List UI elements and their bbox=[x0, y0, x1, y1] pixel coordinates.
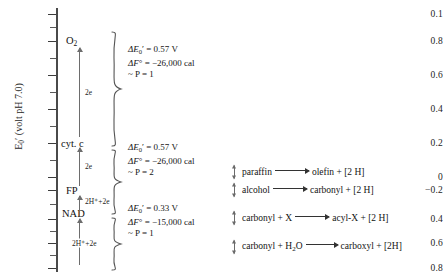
axis-tick-label: 0.4 bbox=[399, 104, 443, 114]
thermo-delta-f-row: ΔF° = −15,000 cal bbox=[128, 217, 195, 229]
y-axis-title-prime: ′ bbox=[13, 138, 24, 140]
species-label-o2: O2 bbox=[66, 35, 77, 48]
axis-tick bbox=[48, 177, 56, 178]
species-label-fp: FP bbox=[66, 185, 78, 196]
thermo-p-row: ~ P = 1 bbox=[128, 228, 195, 240]
thermo-delta-e-row: ΔE0′ = 0.57 V bbox=[128, 142, 195, 156]
y-axis-title-subscript: 0 bbox=[17, 140, 26, 144]
thermo-delta-e-prime: ′ bbox=[142, 44, 144, 54]
thermo-delta-f-row: ΔF° = −26,000 cal bbox=[128, 58, 195, 70]
y-axis-line bbox=[56, 8, 58, 272]
reaction-paraffin-olefin: paraffinolefin + [2 H] bbox=[242, 167, 365, 177]
reaction-alcohol-carbonyl: alcoholcarbonyl + [2 H] bbox=[242, 185, 374, 195]
reaction-products: acyl-X + [2 H] bbox=[332, 213, 388, 223]
thermo-delta-f-degree: ° bbox=[139, 156, 143, 166]
axis-tick bbox=[48, 268, 56, 269]
axis-tick-label: 0.8 bbox=[399, 36, 443, 46]
electron-arrow-label-fp-to-cytc: 2e bbox=[84, 162, 93, 171]
thermo-block-site-2: ΔE0′ = 0.57 V ΔF° = −26,000 cal ~ P = 2 bbox=[128, 142, 195, 179]
thermo-delta-f-symbol: ΔF bbox=[128, 156, 139, 166]
reaction-products: carbonyl + [2 H] bbox=[310, 185, 374, 195]
brace-site-1 bbox=[110, 216, 124, 272]
thermo-p-row: ~ P = 2 bbox=[128, 167, 195, 179]
axis-minor-tick bbox=[50, 255, 56, 256]
thermo-delta-e-symbol: ΔE bbox=[128, 44, 139, 54]
reaction-reactant-tail: O bbox=[296, 241, 303, 251]
y-axis-title: E0′ (volt pH 7.0) bbox=[13, 42, 26, 192]
thermo-delta-f-degree: ° bbox=[139, 217, 143, 227]
axis-tick bbox=[48, 219, 56, 220]
axis-tick bbox=[48, 41, 56, 42]
thermo-delta-f-value: = −15,000 cal bbox=[145, 217, 195, 227]
axis-tick-label: 0.6 bbox=[399, 70, 443, 80]
y-axis-title-symbol: E bbox=[13, 144, 24, 150]
thermo-delta-e-symbol: ΔE bbox=[128, 142, 139, 152]
axis-tick bbox=[48, 109, 56, 110]
thermo-delta-e-value: = 0.33 V bbox=[146, 203, 178, 213]
axis-minor-tick bbox=[50, 126, 56, 127]
axis-tick-label: 0.2 bbox=[399, 138, 443, 148]
axis-minor-tick bbox=[50, 27, 56, 28]
reaction-reactants: carbonyl + X bbox=[242, 213, 292, 223]
axis-tick bbox=[48, 75, 56, 76]
axis-tick-label: 0.4 bbox=[399, 214, 443, 224]
thermo-delta-f-symbol: ΔF bbox=[128, 217, 139, 227]
electron-arrow-cytc-to-o2 bbox=[79, 48, 80, 137]
axis-minor-tick bbox=[50, 92, 56, 93]
electron-arrow-label-nad-to-fp: 2H⁺+2e bbox=[84, 197, 110, 206]
reaction-reactants: alcohol bbox=[242, 185, 270, 195]
reaction-reactants: paraffin bbox=[242, 167, 272, 177]
reaction-reactants: carbonyl + H bbox=[242, 241, 292, 251]
axis-tick bbox=[48, 243, 56, 244]
axis-tick bbox=[48, 190, 56, 191]
species-name: O bbox=[66, 35, 74, 46]
brace-site-3 bbox=[110, 30, 124, 148]
reaction-arrow-icon bbox=[273, 185, 307, 192]
thermo-delta-e-value: = 0.57 V bbox=[146, 44, 178, 54]
axis-tick bbox=[48, 14, 56, 15]
reaction-products: carboxyl + [2H] bbox=[341, 241, 402, 251]
thermo-block-site-3: ΔE0′ = 0.57 V ΔF° = −26,000 cal ~ P = 1 bbox=[128, 44, 195, 81]
reaction-arrow-icon bbox=[306, 241, 338, 248]
electron-label-text: 2H⁺+2e bbox=[85, 197, 109, 206]
axis-minor-tick bbox=[50, 160, 56, 161]
reaction-arrow-icon bbox=[275, 167, 309, 174]
thermo-delta-e-row: ΔE0′ = 0.33 V bbox=[128, 203, 195, 217]
thermo-delta-f-row: ΔF° = −26,000 cal bbox=[128, 156, 195, 168]
electron-arrow-label-substrate-to-nad: 2H⁺+2e bbox=[71, 239, 97, 248]
reaction-updown-arrow-icon bbox=[234, 184, 235, 197]
thermo-delta-e-value: = 0.57 V bbox=[146, 142, 178, 152]
axis-tick-label: 0.1 bbox=[399, 9, 443, 19]
thermo-delta-e-prime: ′ bbox=[142, 142, 144, 152]
axis-tick bbox=[48, 143, 56, 144]
thermo-delta-e-symbol: ΔE bbox=[128, 203, 139, 213]
thermo-delta-e-prime: ′ bbox=[142, 203, 144, 213]
reaction-products: olefin + [2 H] bbox=[312, 167, 365, 177]
thermo-delta-e-row: ΔE0′ = 0.57 V bbox=[128, 44, 195, 58]
species-label-nad: NAD bbox=[62, 208, 85, 219]
axis-tick-label: 0.6 bbox=[399, 238, 443, 248]
axis-tick-label: 0 bbox=[399, 172, 443, 182]
reaction-carbonyl-acylx: carbonyl + Xacyl-X + [2 H] bbox=[242, 213, 389, 223]
axis-minor-tick bbox=[50, 231, 56, 232]
reaction-updown-arrow-icon bbox=[234, 166, 235, 179]
thermo-p-row: ~ P = 1 bbox=[128, 69, 195, 81]
axis-minor-tick bbox=[50, 204, 56, 205]
thermo-delta-f-degree: ° bbox=[139, 58, 143, 68]
axis-minor-tick bbox=[50, 58, 56, 59]
reaction-updown-arrow-icon bbox=[234, 212, 235, 225]
y-axis-title-units: (volt pH 7.0) bbox=[13, 83, 24, 137]
electron-arrow-fp-to-cytc bbox=[79, 148, 80, 186]
brace-site-2 bbox=[110, 148, 124, 216]
thermo-delta-f-symbol: ΔF bbox=[128, 58, 139, 68]
redox-potential-diagram: E0′ (volt pH 7.0) 0.1 0.8 0.6 0.4 0.2 0 … bbox=[0, 0, 443, 280]
thermo-delta-f-value: = −26,000 cal bbox=[145, 156, 195, 166]
reaction-carbonyl-carboxyl: carbonyl + H2Ocarboxyl + [2H] bbox=[242, 241, 402, 253]
reaction-updown-arrow-icon bbox=[234, 241, 235, 254]
electron-arrow-nad-to-fp bbox=[79, 196, 80, 216]
axis-tick-label: 0.8 bbox=[399, 263, 443, 273]
thermo-block-site-1: ΔE0′ = 0.33 V ΔF° = −15,000 cal ~ P = 1 bbox=[128, 203, 195, 240]
electron-arrow-label-cytc-to-o2: 2e bbox=[84, 88, 93, 97]
thermo-delta-f-value: = −26,000 cal bbox=[145, 58, 195, 68]
axis-tick-label: −0.2 bbox=[399, 185, 443, 195]
